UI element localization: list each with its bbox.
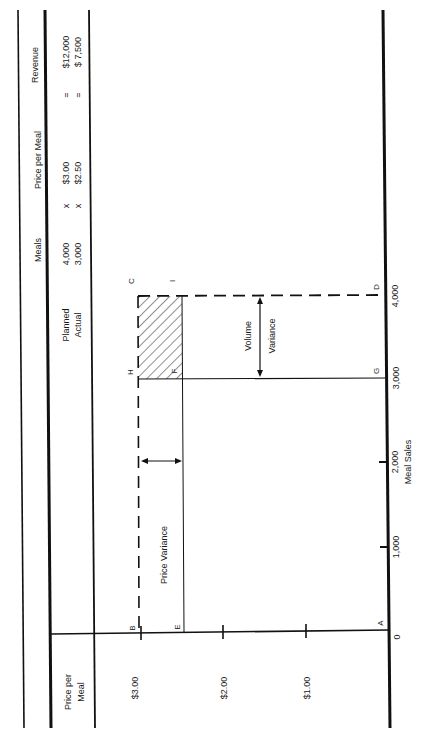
chart-canvas: [0, 0, 428, 748]
x-tick-label-4000: 4,000: [390, 285, 400, 308]
price-variance-label: Price Variance: [159, 526, 169, 584]
actual-price-line: [182, 296, 184, 632]
x-tick-label-1000: 1,000: [391, 536, 401, 559]
point-label-d: D: [372, 284, 382, 290]
row-planned-op1: x: [61, 204, 71, 209]
y-axis-title-line2: Meal: [76, 682, 86, 702]
y-tick-label-3: $3.00: [130, 677, 140, 700]
table-rule-inner: [89, 10, 95, 728]
point-label-c: C: [127, 278, 137, 284]
row-actual-price: $2.50: [73, 162, 83, 185]
point-label-h: H: [126, 369, 136, 375]
row-planned-meals: 4,000: [61, 243, 71, 266]
point-label-i: I: [168, 280, 178, 282]
header-price: Price per Meal: [33, 131, 43, 189]
planned-volume-line: [138, 295, 384, 296]
header-meals: Meals: [33, 238, 43, 262]
point-label-f: F: [170, 369, 180, 374]
x-tick-label-0: 0: [392, 634, 402, 639]
volume-variance-label-2: Variance: [267, 319, 277, 354]
hatched-area: [138, 296, 182, 379]
x-axis-title: Meal Sales: [403, 440, 413, 485]
row-planned-revenue: $12,000: [61, 36, 71, 69]
row-planned-op2: =: [61, 92, 71, 97]
volume-variance-label-1: Volume: [243, 321, 253, 351]
x-tick-label-3000: 3,000: [391, 367, 401, 390]
row-actual-meals: 3,000: [73, 243, 83, 266]
row-actual-op1: x: [73, 204, 83, 209]
row-planned-label: Planned: [61, 308, 71, 341]
table-rule-outer: [18, 10, 24, 728]
y-tick-label-1: $1.00: [302, 677, 312, 700]
table-rule-thick: [45, 10, 51, 728]
row-actual-op2: =: [73, 92, 83, 97]
point-label-a: A: [376, 620, 386, 625]
y-axis-title-line1: Price per: [63, 674, 73, 710]
y-tick-label-2: $2.00: [219, 677, 229, 700]
point-label-e: E: [173, 624, 183, 629]
point-label-g: G: [372, 368, 382, 374]
price-axis: [51, 630, 389, 634]
row-actual-label: Actual: [73, 312, 83, 337]
row-planned-price: $3.00: [61, 162, 71, 185]
x-tick-label-2000: 2,000: [390, 451, 400, 474]
row-actual-revenue: $ 7,500: [73, 37, 83, 67]
point-label-b: B: [128, 625, 138, 630]
header-revenue: Revenue: [30, 47, 40, 83]
